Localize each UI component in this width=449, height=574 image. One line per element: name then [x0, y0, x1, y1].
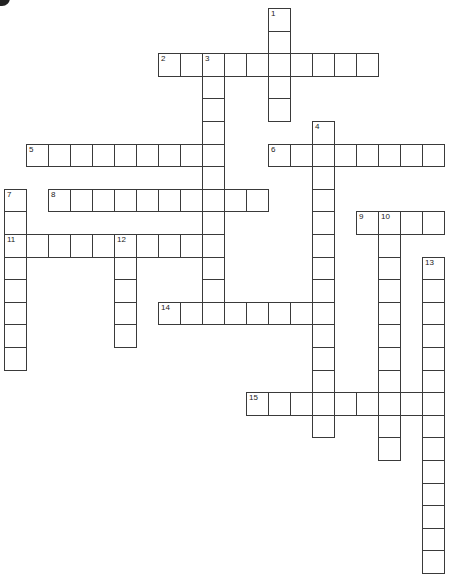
crossword-cell[interactable] — [4, 302, 27, 326]
crossword-cell[interactable] — [202, 257, 225, 281]
crossword-cell[interactable]: 7 — [4, 189, 27, 213]
crossword-cell[interactable] — [202, 234, 225, 258]
crossword-cell[interactable] — [312, 302, 335, 326]
crossword-cell[interactable] — [70, 144, 93, 168]
crossword-cell[interactable] — [422, 211, 445, 235]
crossword-cell[interactable] — [290, 302, 313, 326]
crossword-cell[interactable]: 6 — [268, 144, 291, 168]
crossword-cell[interactable] — [334, 53, 357, 77]
crossword-cell[interactable]: 13 — [422, 257, 445, 281]
crossword-cell[interactable] — [246, 302, 269, 326]
crossword-cell[interactable]: 11 — [4, 234, 27, 258]
crossword-cell[interactable]: 9 — [356, 211, 379, 235]
crossword-cell[interactable] — [312, 370, 335, 394]
crossword-cell[interactable]: 2 — [158, 53, 181, 77]
crossword-cell[interactable] — [422, 528, 445, 552]
crossword-cell[interactable] — [312, 144, 335, 168]
crossword-cell[interactable]: 10 — [378, 211, 401, 235]
crossword-cell[interactable] — [400, 144, 423, 168]
crossword-cell[interactable] — [136, 234, 159, 258]
crossword-cell[interactable] — [202, 166, 225, 190]
crossword-cell[interactable] — [312, 53, 335, 77]
crossword-cell[interactable] — [70, 189, 93, 213]
crossword-cell[interactable] — [268, 53, 291, 77]
crossword-cell[interactable] — [92, 189, 115, 213]
crossword-cell[interactable] — [114, 279, 137, 303]
crossword-cell[interactable] — [202, 98, 225, 122]
crossword-cell[interactable] — [378, 324, 401, 348]
crossword-cell[interactable] — [26, 234, 49, 258]
crossword-cell[interactable] — [48, 144, 71, 168]
crossword-cell[interactable] — [422, 505, 445, 529]
crossword-cell[interactable] — [268, 302, 291, 326]
crossword-cell[interactable] — [180, 189, 203, 213]
crossword-cell[interactable] — [422, 302, 445, 326]
crossword-cell[interactable] — [136, 144, 159, 168]
crossword-cell[interactable] — [422, 324, 445, 348]
crossword-cell[interactable] — [4, 279, 27, 303]
crossword-cell[interactable] — [4, 347, 27, 371]
crossword-cell[interactable] — [422, 347, 445, 371]
crossword-cell[interactable] — [202, 189, 225, 213]
crossword-cell[interactable] — [48, 234, 71, 258]
crossword-cell[interactable] — [422, 415, 445, 439]
crossword-cell[interactable] — [356, 53, 379, 77]
crossword-cell[interactable] — [378, 234, 401, 258]
crossword-cell[interactable]: 15 — [246, 392, 269, 416]
crossword-cell[interactable] — [290, 144, 313, 168]
crossword-cell[interactable] — [180, 302, 203, 326]
crossword-cell[interactable] — [4, 324, 27, 348]
crossword-cell[interactable] — [334, 144, 357, 168]
crossword-cell[interactable] — [268, 392, 291, 416]
crossword-cell[interactable] — [114, 324, 137, 348]
crossword-cell[interactable] — [312, 415, 335, 439]
crossword-cell[interactable] — [422, 144, 445, 168]
crossword-cell[interactable] — [92, 234, 115, 258]
crossword-cell[interactable]: 4 — [312, 121, 335, 145]
crossword-cell[interactable] — [246, 53, 269, 77]
crossword-cell[interactable] — [246, 189, 269, 213]
crossword-cell[interactable] — [136, 189, 159, 213]
crossword-cell[interactable]: 5 — [26, 144, 49, 168]
crossword-cell[interactable] — [378, 392, 401, 416]
crossword-cell[interactable] — [180, 53, 203, 77]
crossword-cell[interactable] — [312, 257, 335, 281]
crossword-cell[interactable]: 3 — [202, 53, 225, 77]
crossword-cell[interactable] — [378, 370, 401, 394]
crossword-cell[interactable] — [202, 144, 225, 168]
crossword-cell[interactable]: 1 — [268, 8, 291, 32]
crossword-cell[interactable] — [378, 347, 401, 371]
crossword-cell[interactable] — [202, 211, 225, 235]
crossword-cell[interactable] — [378, 144, 401, 168]
crossword-cell[interactable] — [158, 189, 181, 213]
crossword-cell[interactable] — [312, 279, 335, 303]
crossword-cell[interactable] — [158, 234, 181, 258]
crossword-cell[interactable] — [312, 189, 335, 213]
crossword-cell[interactable] — [92, 144, 115, 168]
crossword-cell[interactable] — [400, 392, 423, 416]
crossword-cell[interactable] — [312, 392, 335, 416]
crossword-cell[interactable] — [422, 370, 445, 394]
crossword-cell[interactable] — [312, 324, 335, 348]
crossword-cell[interactable] — [202, 76, 225, 100]
crossword-cell[interactable] — [422, 392, 445, 416]
crossword-cell[interactable] — [312, 234, 335, 258]
crossword-cell[interactable] — [422, 483, 445, 507]
crossword-cell[interactable] — [158, 144, 181, 168]
crossword-cell[interactable] — [4, 211, 27, 235]
crossword-cell[interactable] — [180, 144, 203, 168]
crossword-cell[interactable] — [422, 437, 445, 461]
crossword-cell[interactable] — [356, 392, 379, 416]
crossword-cell[interactable] — [378, 437, 401, 461]
crossword-cell[interactable] — [422, 279, 445, 303]
crossword-cell[interactable] — [378, 302, 401, 326]
crossword-cell[interactable] — [224, 302, 247, 326]
crossword-cell[interactable] — [114, 189, 137, 213]
crossword-cell[interactable] — [422, 460, 445, 484]
crossword-cell[interactable] — [290, 53, 313, 77]
crossword-cell[interactable] — [268, 31, 291, 55]
crossword-cell[interactable] — [290, 392, 313, 416]
crossword-cell[interactable]: 14 — [158, 302, 181, 326]
crossword-cell[interactable] — [114, 144, 137, 168]
crossword-cell[interactable] — [400, 211, 423, 235]
